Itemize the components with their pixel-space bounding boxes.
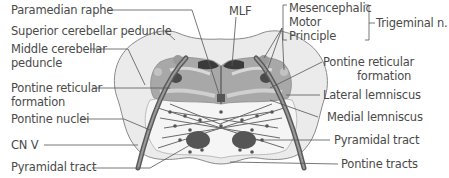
pyramidal-tract-left xyxy=(186,131,210,149)
label-medial-lemniscus: Medial lemniscus xyxy=(327,110,423,124)
label-pontine-reticular-formation-right-line2: formation xyxy=(357,69,411,83)
raphe-nucleus xyxy=(217,94,225,102)
label-middle-cerebellar-peduncle: Middle cerebellar xyxy=(11,42,107,56)
label-lateral-lemniscus: Lateral lemniscus xyxy=(323,88,421,102)
label-pontine-reticular-formation-left-line2: formation xyxy=(11,95,65,109)
principal-nucleus-left xyxy=(154,68,162,76)
label-motor: Motor xyxy=(289,15,321,29)
label-pontine-tracts: Pontine tracts xyxy=(341,157,418,171)
label-principle: Principle xyxy=(289,29,336,43)
label-pontine-reticular-formation-left: Pontine reticular xyxy=(11,81,102,95)
label-trigeminal-n: Trigeminal n. xyxy=(376,16,448,30)
pyramidal-tract-right xyxy=(232,131,256,149)
label-paramedian-raphe: Paramedian raphe xyxy=(11,3,113,17)
label-pyramidal-tract-left: Pyramidal tract xyxy=(11,160,96,174)
label-mlf: MLF xyxy=(229,4,251,18)
label-middle-cerebellar-peduncle-line2: peduncle xyxy=(11,56,62,70)
label-mesencephalic: Mesencephalic xyxy=(289,1,372,15)
label-superior-cerebellar-peduncle: Superior cerebellar peduncle xyxy=(11,24,172,38)
label-pontine-reticular-formation-right: Pontine reticular xyxy=(323,55,414,69)
label-pontine-nuclei: Pontine nuclei xyxy=(11,112,89,126)
label-pyramidal-tract-right: Pyramidal tract xyxy=(334,133,419,147)
label-cn-v: CN V xyxy=(11,138,38,152)
